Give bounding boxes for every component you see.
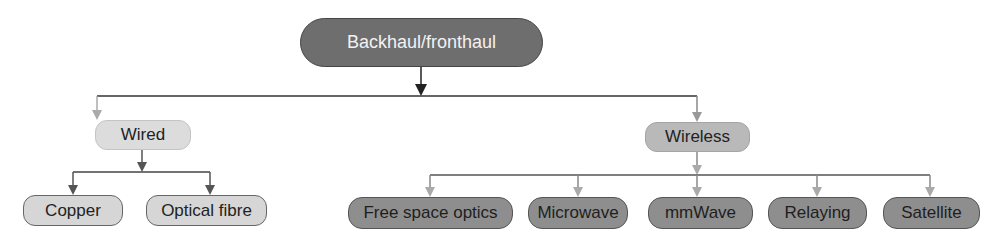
node-wired: Wired	[95, 120, 191, 150]
arrowhead-icon	[68, 185, 78, 195]
arrowhead-icon	[205, 185, 215, 195]
arrowhead-icon	[692, 112, 702, 122]
arrowhead-icon	[137, 162, 147, 172]
arrowhead-icon	[92, 110, 102, 120]
node-wireless: Wireless	[645, 122, 750, 152]
arrowhead-icon	[812, 187, 822, 197]
arrowhead-icon	[925, 187, 935, 197]
node-copper: Copper	[23, 195, 123, 226]
arrowhead-icon	[692, 165, 702, 175]
node-satellite: Satellite	[883, 197, 980, 229]
node-relaying: Relaying	[768, 197, 867, 229]
arrowhead-icon	[692, 187, 702, 197]
node-optical-fibre: Optical fibre	[146, 195, 267, 226]
node-mmwave: mmWave	[648, 197, 753, 229]
node-free-space-optics: Free space optics	[348, 197, 513, 229]
arrowhead-icon	[425, 187, 435, 197]
node-microwave: Microwave	[528, 197, 628, 229]
arrowhead-icon	[573, 187, 583, 197]
root-node-backhaul-fronthaul: Backhaul/fronthaul	[300, 18, 543, 67]
arrowhead-icon	[415, 84, 427, 96]
